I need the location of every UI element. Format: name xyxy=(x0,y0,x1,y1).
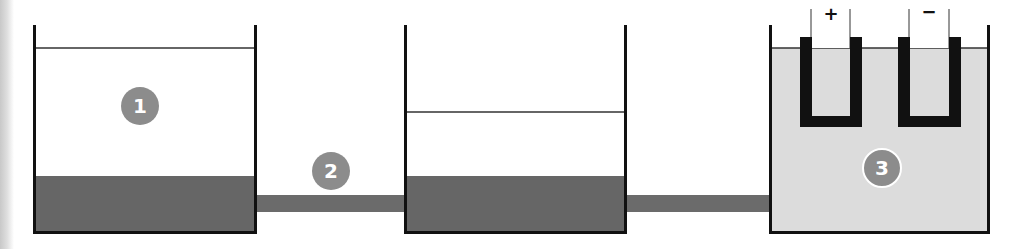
badge-2: 2 xyxy=(312,152,350,190)
pipe-2-body xyxy=(627,195,770,212)
pipe-1: 2 xyxy=(257,152,404,212)
badge-1: 1 xyxy=(121,87,159,125)
tank-1-sediment xyxy=(36,176,254,232)
tank-2 xyxy=(406,25,626,233)
tank-3: + − 3 xyxy=(771,0,989,233)
negative-sign: − xyxy=(921,1,936,22)
badge-3-label: 3 xyxy=(875,156,889,180)
badge-1-label: 1 xyxy=(133,94,147,118)
badge-2-label: 2 xyxy=(324,159,338,183)
tank-2-sediment xyxy=(407,176,625,232)
tank-1: 1 xyxy=(35,25,256,233)
positive-sign: + xyxy=(823,3,838,24)
electrolysis-process-diagram: 1 2 + xyxy=(0,0,1009,249)
pipe-1-body xyxy=(257,195,404,212)
pipe-2 xyxy=(627,195,770,212)
badge-3: 3 xyxy=(863,149,901,187)
